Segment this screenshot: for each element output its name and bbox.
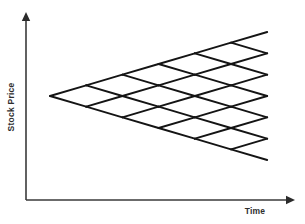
lattice-edge xyxy=(195,64,231,75)
lattice-edge xyxy=(159,117,195,128)
y-axis-arrowhead xyxy=(22,12,30,21)
lattice-edges xyxy=(50,32,267,160)
lattice-edge xyxy=(195,43,231,54)
lattice-edge xyxy=(122,107,158,118)
lattice-edge xyxy=(159,96,195,107)
lattice-edge xyxy=(122,64,158,75)
lattice-edge xyxy=(231,139,267,150)
lattice-edge xyxy=(50,96,86,107)
x-axis-arrowhead xyxy=(286,196,295,204)
lattice-edge xyxy=(122,85,158,96)
y-axis xyxy=(22,12,30,200)
lattice-edge xyxy=(231,149,267,160)
lattice-edge xyxy=(195,75,231,86)
lattice-edge xyxy=(86,96,122,107)
lattice-edge xyxy=(159,64,195,75)
binomial-lattice-figure: Stock Price Time xyxy=(0,0,305,224)
lattice-edge xyxy=(122,117,158,128)
lattice-edge xyxy=(231,117,267,128)
lattice-edge xyxy=(231,32,267,43)
lattice-edge xyxy=(231,107,267,118)
lattice-edge xyxy=(231,128,267,139)
lattice-edge xyxy=(195,53,231,64)
lattice-edge xyxy=(86,85,122,96)
lattice-edge xyxy=(195,139,231,150)
lattice-edge xyxy=(195,128,231,139)
lattice-edge xyxy=(231,85,267,96)
x-axis xyxy=(26,196,295,204)
lattice-edge xyxy=(195,85,231,96)
lattice-edge xyxy=(231,53,267,64)
lattice-edge xyxy=(122,96,158,107)
lattice-edge xyxy=(159,75,195,86)
lattice-edge xyxy=(86,75,122,86)
lattice-edge xyxy=(159,107,195,118)
lattice-edge xyxy=(159,85,195,96)
lattice-edge xyxy=(195,96,231,107)
lattice-edge xyxy=(50,85,86,96)
lattice-edge xyxy=(231,75,267,86)
x-axis-label: Time xyxy=(245,206,266,216)
lattice-edge xyxy=(195,117,231,128)
lattice-edge xyxy=(195,107,231,118)
y-axis-label: Stock Price xyxy=(6,82,16,131)
lattice-edge xyxy=(159,53,195,64)
lattice-edge xyxy=(231,64,267,75)
lattice-edge xyxy=(122,75,158,86)
lattice-edge xyxy=(159,128,195,139)
lattice-edge xyxy=(231,96,267,107)
lattice-edge xyxy=(231,43,267,54)
lattice-edge xyxy=(86,107,122,118)
lattice-canvas: Stock Price Time xyxy=(0,0,305,224)
